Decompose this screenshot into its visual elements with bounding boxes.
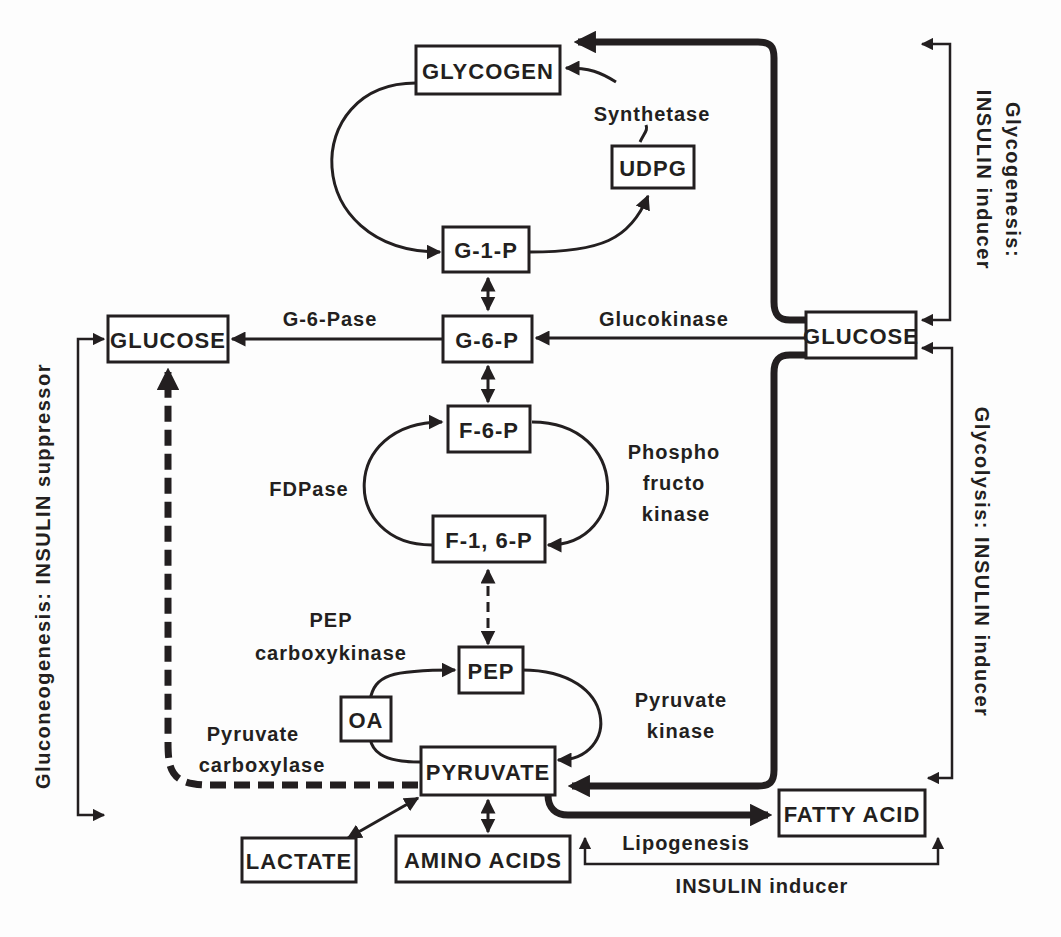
fdpase-arrow xyxy=(364,422,442,545)
node-f6p: F-6-P xyxy=(448,406,530,452)
node-udpg: UDPG xyxy=(612,146,694,188)
glycolysis-bracket xyxy=(922,348,952,778)
fdpase-label: FDPase xyxy=(269,478,348,500)
pathway-diagram: GLYCOGEN UDPG G-1-P G-6-P GLUCOSE GLUCOS… xyxy=(0,0,1061,937)
udpg-to-glycogen-arrow xyxy=(566,68,616,82)
node-pyruvate: PYRUVATE xyxy=(421,747,555,795)
synthetase-tick xyxy=(640,125,647,142)
udpg-label: UDPG xyxy=(619,156,687,181)
node-lactate: LACTATE xyxy=(242,838,356,882)
glycogenesis-bracket xyxy=(922,44,950,320)
node-g1p: G-1-P xyxy=(443,227,529,272)
g1p-label: G-1-P xyxy=(454,238,518,263)
f16p-label: F-1, 6-P xyxy=(445,528,532,553)
node-glucose-right: GLUCOSE xyxy=(803,312,919,358)
glycogenesis-label: Glycogenesis: xyxy=(1002,102,1024,258)
node-glycogen: GLYCOGEN xyxy=(416,46,560,94)
gluconeogenesis-bracket xyxy=(78,339,104,815)
lipogenesis-label: Lipogenesis xyxy=(622,832,750,854)
glucose-left-label: GLUCOSE xyxy=(110,328,226,353)
glycogenesis-insulin-label: INSULIN inducer xyxy=(973,90,995,270)
synthetase-label: Synthetase xyxy=(594,103,711,125)
pep-label: PEP xyxy=(467,659,514,684)
pathway-canvas: GLYCOGEN UDPG G-1-P G-6-P GLUCOSE GLUCOS… xyxy=(0,0,1061,937)
pfk-label-line3: kinase xyxy=(642,503,710,525)
amino-acids-label: AMINO ACIDS xyxy=(404,848,562,873)
node-amino-acids: AMINO ACIDS xyxy=(396,836,570,882)
node-glucose-left: GLUCOSE xyxy=(108,316,228,362)
oa-label: OA xyxy=(349,708,384,733)
lactate-label: LACTATE xyxy=(246,849,352,874)
pyruvate-label: PYRUVATE xyxy=(426,760,551,785)
node-fatty-acid: FATTY ACID xyxy=(779,790,925,836)
g1p-to-udpg-arrow xyxy=(530,196,648,252)
enzyme-labels: Synthetase G-6-Pase Glucokinase FDPase P… xyxy=(199,103,750,854)
node-oa: OA xyxy=(341,697,391,741)
pk-label-line2: kinase xyxy=(647,720,715,742)
pc-label-line2: carboxylase xyxy=(199,754,326,776)
pepck-label-line1: PEP xyxy=(309,609,352,631)
node-f16p: F-1, 6-P xyxy=(433,516,545,562)
glucokinase-label: Glucokinase xyxy=(599,308,729,330)
pfk-label-line2: fructo xyxy=(643,472,706,494)
glucose-right-label: GLUCOSE xyxy=(803,324,919,349)
node-pep: PEP xyxy=(459,647,523,693)
lipogenesis-insulin-label: INSULIN inducer xyxy=(676,875,849,897)
node-g6p: G-6-P xyxy=(443,316,532,362)
lipogenesis-thick-arrow xyxy=(548,795,768,815)
pk-label-line1: Pyruvate xyxy=(635,689,728,711)
glycogen-label: GLYCOGEN xyxy=(422,59,554,84)
pfk-label-line1: Phospho xyxy=(628,441,721,463)
glycogen-to-g1p-arrow xyxy=(332,83,440,252)
glycolysis-label: Glycolysis: INSULIN inducer xyxy=(971,407,993,718)
gluconeogenesis-label: Gluconeogenesis: INSULIN suppressor xyxy=(32,363,54,789)
pyruvate-lactate-arrow xyxy=(348,798,418,838)
pc-label-line1: Pyruvate xyxy=(207,723,300,745)
fatty-acid-label: FATTY ACID xyxy=(784,802,921,827)
pepck-label-line2: carboxykinase xyxy=(255,642,407,664)
f6p-label: F-6-P xyxy=(459,418,519,443)
g6pase-label: G-6-Pase xyxy=(283,308,378,330)
g6p-label: G-6-P xyxy=(455,328,519,353)
